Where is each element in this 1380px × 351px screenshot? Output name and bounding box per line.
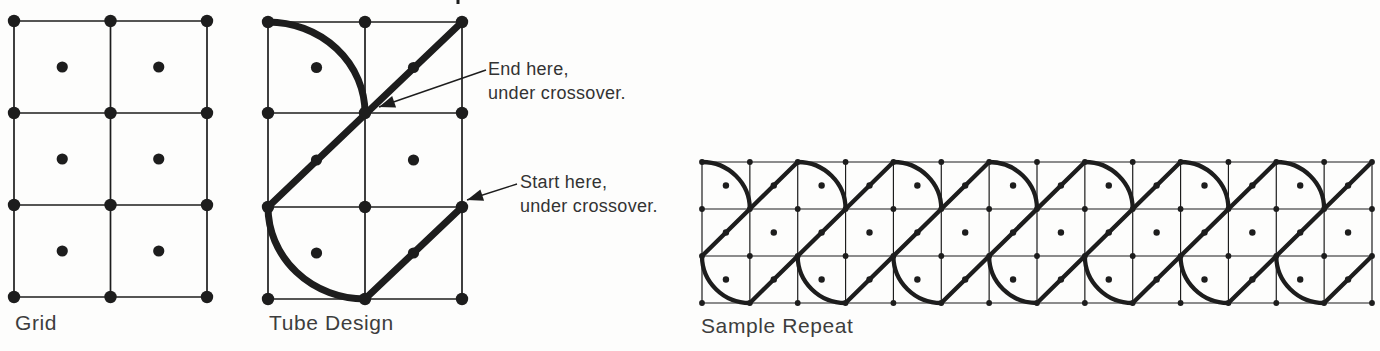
sample-repeat-figure (699, 159, 1375, 306)
diagram-canvas (0, 0, 1380, 351)
grid-label: Grid (15, 311, 57, 335)
grid-figure (8, 15, 213, 303)
start-annotation: Start here, under crossover. (520, 170, 658, 218)
sample-repeat-label: Sample Repeat (701, 314, 854, 338)
tube-design-figure (262, 16, 468, 305)
end-annotation: End here, under crossover. (488, 57, 626, 105)
tube-design-label: Tube Design (269, 311, 394, 335)
start-annotation-line1: Start here, (520, 170, 658, 194)
end-annotation-line1: End here, (488, 57, 626, 81)
end-annotation-line2: under crossover. (488, 81, 626, 105)
page: Grid Tube Design Sample Repeat End here,… (0, 0, 1380, 351)
start-annotation-line2: under crossover. (520, 194, 658, 218)
